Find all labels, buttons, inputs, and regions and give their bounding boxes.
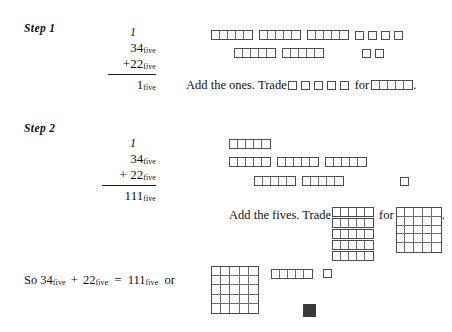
base-five-strip xyxy=(254,176,296,186)
step-2-instruction-middle: for xyxy=(379,209,394,222)
step-2-trade-from-strips xyxy=(332,207,374,261)
base-five-strip xyxy=(302,176,344,186)
step-2-sum-rule xyxy=(102,185,156,186)
step-1-trade-to-strip xyxy=(371,80,413,90)
step-1-trade-from-units xyxy=(288,81,349,90)
base-five-strip xyxy=(307,30,349,40)
base-five-unit xyxy=(288,81,297,90)
base-five-unit xyxy=(301,81,310,90)
base-five-unit xyxy=(362,49,371,58)
step-1-model-row-1 xyxy=(211,30,403,40)
base-five-strip xyxy=(332,218,374,228)
step-2-addend-2: + 22five xyxy=(88,168,168,182)
base-five-unit xyxy=(368,31,377,40)
base-five-strip xyxy=(325,157,367,167)
step-1-addend-2: +22five xyxy=(88,57,164,71)
conclusion-statement: So 34five + 22five = 111five or xyxy=(24,274,175,287)
step-1-model-row-2 xyxy=(234,48,384,58)
step-1-instruction-middle: for xyxy=(355,79,370,92)
conclusion-filled-unit xyxy=(303,304,316,317)
conclusion-flat xyxy=(211,266,259,314)
step-2-trade-to-flat xyxy=(396,207,442,253)
step-1-sum-rule xyxy=(108,74,156,75)
base-five-unit xyxy=(400,177,409,186)
base-five-unit-filled xyxy=(303,304,316,317)
step-2-addend-1: 34five xyxy=(88,152,168,166)
base-five-unit xyxy=(394,31,403,40)
base-five-unit xyxy=(314,81,323,90)
base-five-strip xyxy=(211,30,253,40)
base-five-strip xyxy=(259,30,301,40)
base-five-unit xyxy=(355,31,364,40)
conclusion-addend-1: 34five xyxy=(40,273,65,287)
step-2-carry: 1 xyxy=(88,137,168,149)
step-1-label: Step 1 xyxy=(24,22,55,34)
step-1-instruction-prefix: Add the ones. Trade xyxy=(186,79,287,92)
step-1-result: 1five xyxy=(88,78,164,92)
conclusion-plus: + xyxy=(71,273,78,287)
step-1-instruction-suffix: . xyxy=(413,79,416,92)
step-2-instruction-suffix: . xyxy=(442,209,445,222)
base-five-unit xyxy=(327,81,336,90)
step-1-carry: 1 xyxy=(88,26,164,38)
step-1-problem: 1 34five +22five 1five xyxy=(88,26,164,92)
step-2-problem: 1 34five + 22five 111five xyxy=(88,137,168,203)
base-five-strip xyxy=(332,240,374,250)
base-five-unit xyxy=(381,31,390,40)
conclusion-strip xyxy=(271,269,313,279)
step-2-instruction: Add the fives. Trade for . xyxy=(229,207,445,261)
conclusion-addend-2: 22five xyxy=(83,273,108,287)
conclusion-so: So xyxy=(24,273,37,287)
base-five-strip xyxy=(277,157,319,167)
conclusion-unit xyxy=(323,269,332,278)
base-five-unit xyxy=(375,49,384,58)
base-five-unit xyxy=(340,81,349,90)
base-five-strip xyxy=(332,207,374,217)
base-five-strip xyxy=(234,48,276,58)
base-five-strip xyxy=(229,139,271,149)
base-five-strip xyxy=(229,157,271,167)
step-2-model-row-1 xyxy=(229,139,271,149)
conclusion-result: 111five xyxy=(128,273,159,287)
step-2-model-row-2 xyxy=(229,157,367,167)
step-2-instruction-prefix: Add the fives. Trade xyxy=(229,209,331,222)
step-2-label: Step 2 xyxy=(24,122,55,134)
base-five-strip xyxy=(282,48,324,58)
conclusion-equals: = xyxy=(114,273,121,287)
base-five-strip xyxy=(332,229,374,239)
conclusion-or: or xyxy=(164,273,174,287)
step-2-result: 111five xyxy=(88,189,168,203)
step-2-model-row-3 xyxy=(254,176,409,186)
step-1-addend-1: 34five xyxy=(88,41,164,55)
step-1-instruction: Add the ones. Trade for . xyxy=(186,79,416,92)
base-five-strip xyxy=(332,251,374,261)
